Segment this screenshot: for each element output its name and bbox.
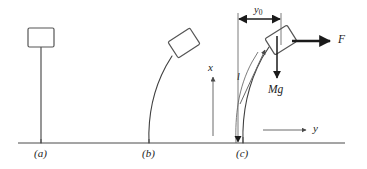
figure-canvas (0, 0, 367, 169)
axis-x-label: x (208, 62, 213, 73)
axis-y-label: y (313, 123, 318, 134)
rod-c (243, 47, 269, 143)
panel-label-b: (b) (142, 148, 155, 159)
mass-block-a (28, 28, 54, 47)
panel-label-a: (a) (34, 148, 47, 159)
rod-b (149, 56, 172, 143)
dimension-y0-label: y0 (254, 5, 262, 16)
panel-a-group (28, 28, 54, 143)
mass-block-b (168, 28, 200, 58)
weight-mg-label: Mg (268, 84, 283, 96)
panel-b-group (149, 28, 200, 143)
panel-label-c: (c) (236, 148, 248, 159)
physics-figure: (a) (b) (c) y0 l F Mg x y (0, 0, 367, 169)
arc-length-indicator (240, 50, 265, 104)
dimension-y0-subscript: 0 (259, 8, 263, 17)
arc-length-label: l (237, 72, 240, 82)
force-f-label: F (338, 34, 345, 46)
